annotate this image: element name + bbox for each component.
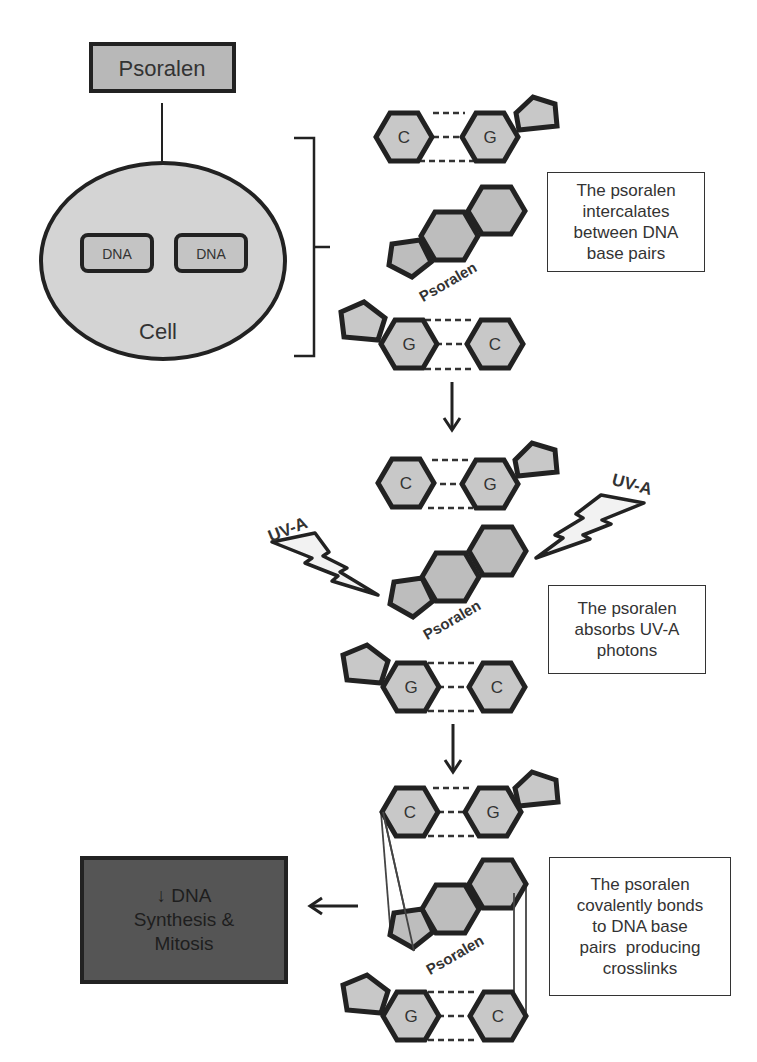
purine-pentagon (343, 645, 388, 683)
psoralen-molecule: Psoralen (389, 187, 525, 305)
uv-bolt-left: UV-A (265, 513, 378, 595)
base-G-label: G (483, 475, 496, 494)
note-uv-absorption: The psoralen absorbs UV-A photons (548, 585, 706, 674)
note-line: between DNA (574, 222, 679, 243)
base-C-label: C (398, 128, 410, 147)
note-line: to DNA base (577, 916, 704, 937)
base-C-label: C (492, 1007, 504, 1026)
dna-box-2-label: DNA (196, 246, 226, 262)
base-C-label: C (491, 678, 503, 697)
arrow-to-outcome (310, 898, 358, 914)
base-C-label: C (400, 474, 412, 493)
psoralen-source-box: Psoralen (91, 44, 234, 91)
purine-pentagon (341, 302, 385, 340)
base-pair-bottom: G C (343, 645, 525, 711)
purine-pentagon (515, 443, 557, 476)
cell: DNA DNA Cell (41, 163, 285, 359)
note-crosslinking: The psoralen covalently bonds to DNA bas… (549, 857, 731, 996)
note-line: base pairs (574, 243, 679, 264)
note-line: pairs producing (577, 937, 704, 958)
note-line: The psoralen (575, 598, 680, 619)
base-pair-bottom: G C (341, 302, 523, 369)
note-line: intercalates (574, 201, 679, 222)
base-G-label: G (404, 678, 417, 697)
outcome-line-1: ↓ DNA (134, 884, 234, 908)
base-G-label: G (404, 1007, 417, 1026)
outcome-text: ↓ DNA Synthesis & Mitosis (82, 858, 286, 982)
arrow-stage2-to-stage3 (445, 724, 461, 772)
note-line: covalently bonds (577, 895, 704, 916)
stage-crosslinking: C G Psoralen G C (343, 772, 558, 1040)
note-line: The psoralen (577, 874, 704, 895)
base-G-label: G (402, 335, 415, 354)
stage-intercalation: C G Psoralen G C (341, 97, 557, 369)
note-line: The psoralen (574, 180, 679, 201)
note-line: absorbs UV-A (575, 619, 680, 640)
note-line: photons (575, 640, 680, 661)
note-line: crosslinks (577, 958, 704, 979)
lightning-icon (272, 533, 378, 595)
purine-pentagon (343, 975, 388, 1013)
psoralen-source-label: Psoralen (119, 56, 206, 81)
base-pair-bottom: G C (343, 975, 526, 1040)
arrow-stage1-to-stage2 (444, 382, 460, 430)
base-C-label: C (404, 803, 416, 822)
uv-label-right: UV-A (610, 470, 654, 499)
psoralen-molecule-label: Psoralen (423, 931, 486, 977)
base-pair-top: C G (378, 443, 557, 508)
base-pair-top: C G (376, 97, 557, 161)
base-C-label: C (489, 335, 501, 354)
psoralen-molecule: Psoralen (390, 527, 526, 643)
cell-label: Cell (139, 319, 177, 344)
note-intercalation: The psoralen intercalates between DNA ba… (547, 172, 705, 272)
purine-pentagon (515, 772, 558, 806)
purine-pentagon (516, 97, 557, 130)
base-G-label: G (486, 803, 499, 822)
dna-box-1-label: DNA (102, 246, 132, 262)
outcome-line-2: Synthesis & (134, 908, 234, 932)
bracket (294, 138, 330, 356)
base-pair-top: C G (382, 772, 558, 836)
uv-bolt-right: UV-A (536, 470, 654, 558)
outcome-line-3: Mitosis (134, 932, 234, 956)
base-G-label: G (483, 128, 496, 147)
lightning-icon (536, 495, 644, 558)
